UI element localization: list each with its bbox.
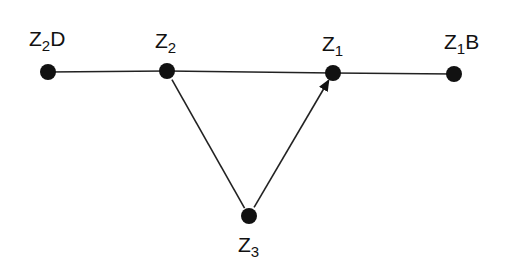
node-z2	[159, 63, 175, 79]
edge-z2d-z2	[48, 71, 167, 72]
label-z1: Z1	[322, 33, 343, 54]
edge-z2-z1	[167, 71, 333, 73]
edges-group	[48, 71, 454, 208]
edge-z1-z1b	[333, 73, 454, 74]
edge-z2-z3	[172, 80, 245, 208]
label-z1b: Z1B	[444, 31, 479, 52]
label-z3: Z3	[238, 234, 259, 255]
edge-z3-z1-arrow	[254, 81, 328, 208]
label-z2: Z2	[155, 30, 176, 51]
label-z2d: Z2D	[29, 28, 65, 49]
node-z2d	[40, 64, 56, 80]
node-z1b	[446, 66, 462, 82]
nodes-group	[40, 63, 462, 224]
node-z1	[325, 65, 341, 81]
node-z3	[241, 208, 257, 224]
